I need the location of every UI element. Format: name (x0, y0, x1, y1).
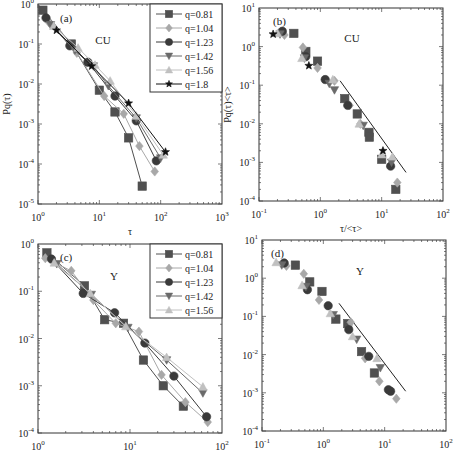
legend-label: q=0.81 (185, 249, 213, 260)
tick-label: 102 (215, 439, 229, 452)
legend-label: q=1.23 (185, 37, 213, 48)
square-marker (365, 133, 373, 141)
tick-label: 101 (245, 233, 259, 246)
square-marker (124, 134, 132, 142)
tick-label: 10-1 (251, 207, 267, 220)
panel-tag: (c) (60, 251, 73, 264)
panel-d: 10-110010110210-410-310-210-1100101(d)Y (242, 233, 453, 450)
panel-tag: (b) (273, 15, 286, 28)
tick-label: 101 (242, 1, 256, 14)
square-marker (159, 382, 167, 390)
panel-tag: (d) (271, 247, 284, 260)
legend-label: q=1.04 (185, 23, 213, 34)
tick-label: 10-2 (18, 332, 34, 345)
y-axis-label: Pq(τ) (1, 93, 13, 114)
circle-marker (165, 278, 172, 285)
tick-label: 101 (378, 437, 392, 450)
legend-label: q=1.8 (185, 79, 208, 90)
circle-marker (42, 14, 50, 22)
tick-label: 100 (242, 40, 256, 53)
tick-label: 10-2 (239, 117, 255, 130)
tick-label: 10-4 (242, 424, 258, 437)
tick-label: 10-1 (18, 284, 34, 297)
tick-label: 100 (21, 237, 35, 250)
circle-marker (165, 38, 172, 45)
tick-label: 10-1 (239, 78, 255, 91)
legend-label: q=1.56 (185, 65, 213, 76)
tick-label: 10-2 (242, 348, 258, 361)
tick-label: 101 (93, 210, 107, 223)
square-marker (318, 287, 326, 295)
circle-marker (344, 101, 352, 109)
tick-label: 100 (314, 207, 328, 220)
square-marker (165, 10, 172, 17)
panel-tag: (a) (60, 12, 73, 25)
x-axis-label: τ (128, 226, 132, 237)
circle-marker (170, 372, 178, 380)
tick-label: 101 (375, 207, 389, 220)
square-marker (100, 315, 108, 323)
tick-label: 10-1 (254, 437, 270, 450)
panel-b: 10-110010110210-410-310-210-1100101τ/<τ>… (222, 1, 450, 234)
legend: q=0.81q=1.04q=1.23q=1.42q=1.56 (150, 244, 222, 318)
panel-title: CU (95, 34, 110, 46)
tick-label: 100 (31, 439, 45, 452)
legend: q=0.81q=1.04q=1.23q=1.42q=1.56q=1.8 (150, 4, 222, 92)
tick-label: 10-3 (18, 117, 34, 130)
square-marker (370, 369, 378, 377)
square-marker (392, 185, 400, 193)
square-marker (138, 182, 146, 190)
tick-label: 103 (215, 210, 229, 223)
tick-label: 10-5 (18, 197, 34, 210)
legend-label: q=1.42 (185, 51, 213, 62)
tick-label: 100 (31, 210, 45, 223)
tick-label: 100 (245, 271, 259, 284)
tick-label: 10-3 (239, 155, 255, 168)
chart-canvas: 10010110210310-510-410-310-210-1100τPq(τ… (0, 0, 458, 464)
tick-label: 10-3 (242, 386, 258, 399)
tick-label: 10-1 (242, 309, 258, 322)
tick-label: 100 (317, 437, 331, 450)
legend-label: q=0.81 (185, 9, 213, 20)
tick-label: 102 (439, 437, 453, 450)
tick-label: 10-2 (18, 77, 34, 90)
panel-title: CU (344, 32, 359, 44)
square-marker (165, 250, 172, 257)
legend-label: q=1.23 (185, 277, 213, 288)
legend-label: q=1.04 (185, 263, 213, 274)
square-marker (139, 356, 147, 364)
square-marker (290, 29, 298, 37)
panel-title: Y (110, 270, 118, 282)
tick-label: 10-3 (18, 379, 34, 392)
tick-label: 102 (436, 207, 450, 220)
circle-marker (386, 387, 394, 395)
square-marker (353, 110, 361, 118)
circle-marker (202, 413, 210, 421)
square-marker (39, 6, 47, 14)
circle-marker (345, 325, 353, 333)
legend-label: q=1.42 (185, 291, 213, 302)
legend-label: q=1.56 (185, 305, 213, 316)
tick-label: 10-1 (18, 37, 34, 50)
y-axis-label: Pq(τ)<τ> (222, 86, 234, 123)
panel-a: 10010110210310-510-410-310-210-1100τPq(τ… (1, 0, 229, 237)
tick-label: 10-4 (239, 194, 255, 207)
tick-label: 10-4 (18, 426, 34, 439)
square-marker (291, 261, 299, 269)
tick-label: 10-4 (18, 157, 34, 170)
tick-label: 100 (21, 0, 35, 10)
circle-marker (324, 302, 332, 310)
panel-c: 10010110210-410-310-210-1100(c)Yq=0.81q=… (18, 237, 229, 452)
tick-label: 101 (123, 439, 137, 452)
tick-label: 102 (154, 210, 168, 223)
panel-title: Y (356, 265, 364, 277)
x-axis-label: τ/<τ> (340, 223, 362, 234)
circle-marker (365, 352, 373, 360)
